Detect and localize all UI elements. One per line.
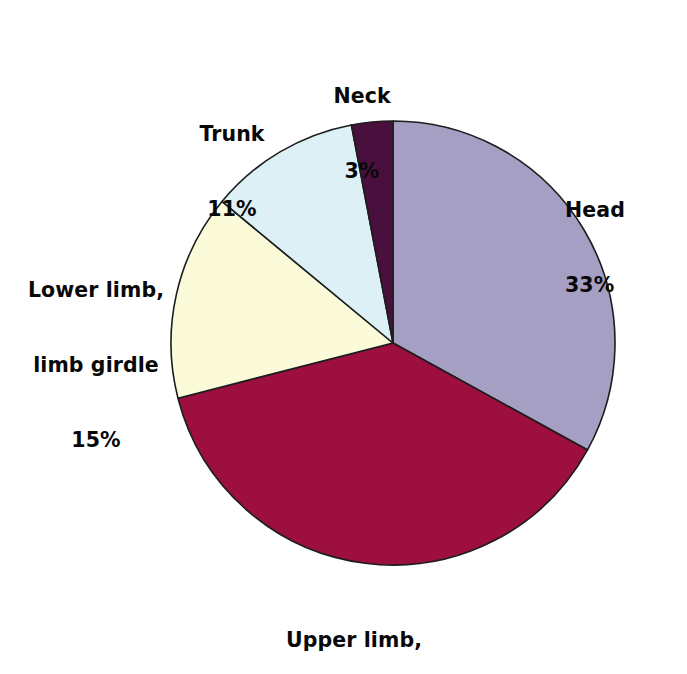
slice-label-lower-limb-value: 15%	[4, 428, 188, 453]
pie-chart-figure: Head 33% Upper limb, limb girdle 38% Low…	[0, 0, 687, 674]
slice-label-neck: Neck 3%	[292, 34, 432, 234]
slice-label-neck-name: Neck	[292, 84, 432, 109]
slice-label-head-name: Head	[565, 198, 683, 223]
slice-label-upper-limb: Upper limb, limb girdle 38%	[243, 578, 465, 674]
slice-label-head: Head 33%	[565, 148, 683, 348]
slice-label-trunk-name: Trunk	[152, 122, 312, 147]
slice-label-upper-limb-line1: Upper limb,	[243, 628, 465, 653]
slice-label-trunk: Trunk 11%	[152, 72, 312, 272]
slice-label-neck-value: 3%	[292, 159, 432, 184]
slice-label-trunk-value: 11%	[152, 197, 312, 222]
slice-label-lower-limb-line2: limb girdle	[4, 353, 188, 378]
slice-label-lower-limb-line1: Lower limb,	[4, 278, 188, 303]
slice-label-head-value: 33%	[565, 273, 683, 298]
